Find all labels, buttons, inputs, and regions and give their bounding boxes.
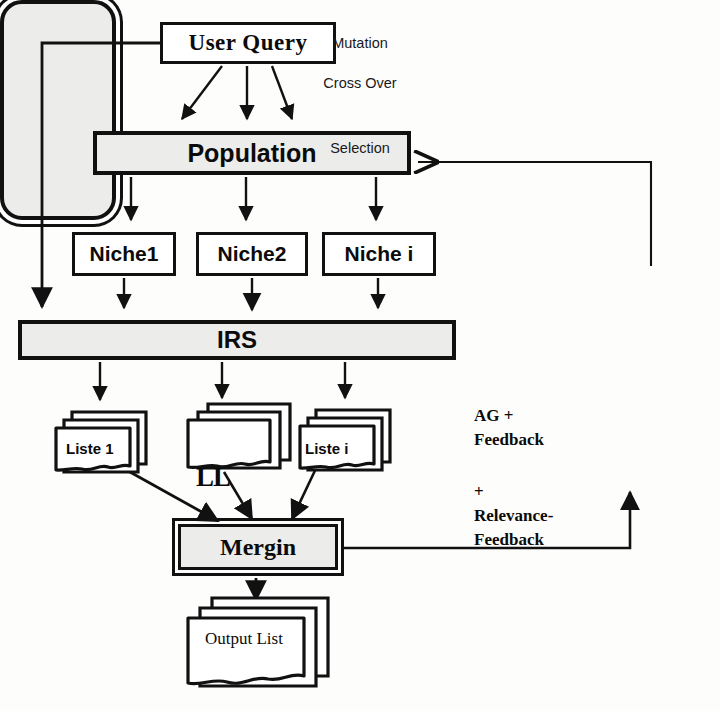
ga-crossover-label: Cross Over (0, 75, 720, 91)
node-niche-i-label: Niche i (345, 242, 414, 266)
annotation-relevance-line1: + (474, 480, 553, 504)
node-liste-i-label: Liste i (305, 440, 348, 457)
doc-stack-middle (188, 404, 290, 468)
node-niche2-label: Niche2 (218, 242, 287, 266)
annotation-ag-line1: AG + (474, 404, 544, 428)
node-output-list-label: Output List (205, 629, 283, 649)
node-niche1[interactable]: Niche1 (72, 232, 176, 276)
node-ll-label: LL (196, 462, 230, 493)
diagram-canvas: User Query Population Niche1 Niche2 Nich… (0, 0, 720, 711)
node-niche1-label: Niche1 (90, 242, 159, 266)
annotation-relevance-line3: Feedback (474, 528, 553, 552)
node-irs[interactable]: IRS (18, 320, 456, 360)
node-mergin[interactable]: Mergin (178, 524, 338, 570)
node-mergin-label: Mergin (220, 534, 296, 561)
annotation-relevance-line2: Relevance- (474, 504, 553, 528)
edge-ga-population (418, 162, 651, 266)
node-niche-i[interactable]: Niche i (322, 232, 436, 276)
annotation-ag-line2: Feedback (474, 428, 544, 452)
node-irs-label: IRS (217, 326, 257, 354)
edge-query-population-right (272, 66, 292, 119)
annotation-ag-feedback: AG + Feedback (474, 404, 544, 452)
annotation-relevance-feedback: + Relevance- Feedback (474, 480, 553, 552)
edge-query-population-left (182, 66, 222, 119)
ga-mutation-label: Mutation (0, 35, 720, 51)
node-liste1-label: Liste 1 (66, 440, 114, 457)
ga-selection-label: Selection (0, 140, 720, 156)
node-niche2[interactable]: Niche2 (196, 232, 308, 276)
